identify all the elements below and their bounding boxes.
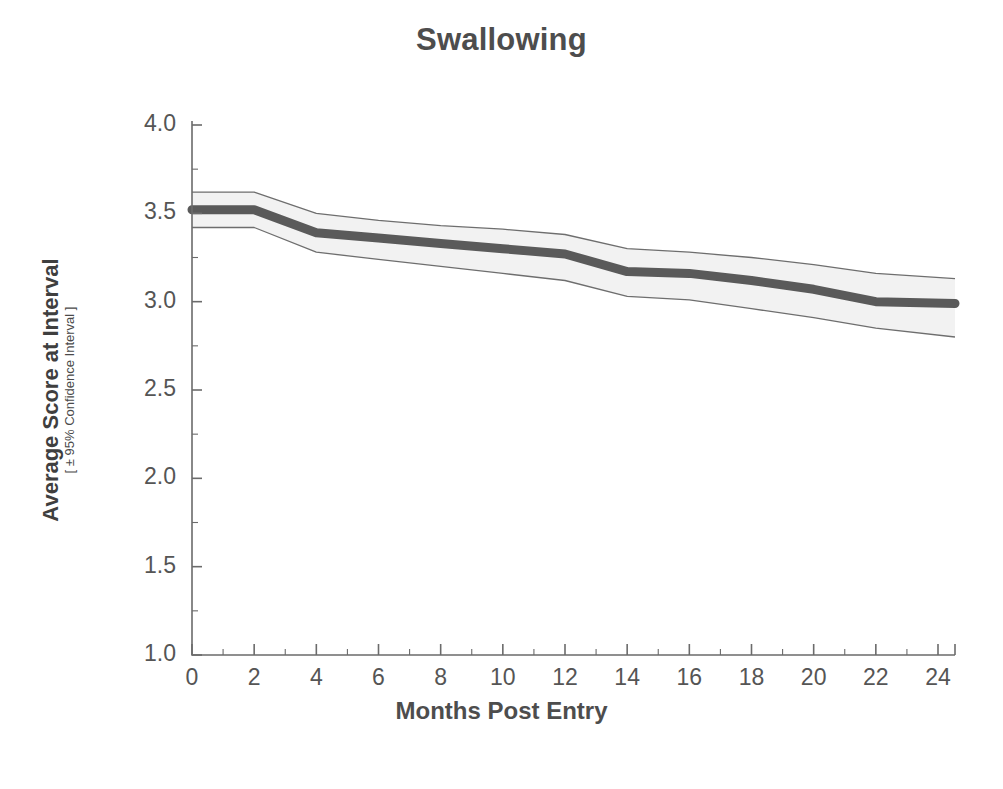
x-tick-label: 10 xyxy=(478,664,528,691)
y-tick-label: 2.5 xyxy=(106,375,176,402)
x-tick-label: 6 xyxy=(354,664,404,691)
x-tick-label: 24 xyxy=(913,664,963,691)
y-tick-label: 4.0 xyxy=(106,110,176,137)
y-tick-label: 2.0 xyxy=(106,463,176,490)
x-tick-label: 14 xyxy=(602,664,652,691)
x-tick-label: 12 xyxy=(540,664,590,691)
x-tick-label: 4 xyxy=(291,664,341,691)
y-tick-label: 3.0 xyxy=(106,287,176,314)
x-tick-label: 18 xyxy=(727,664,777,691)
x-tick-label: 20 xyxy=(789,664,839,691)
x-tick-label: 8 xyxy=(416,664,466,691)
x-tick-label: 0 xyxy=(167,664,217,691)
chart-figure: Swallowing Average Score at Interval [ ±… xyxy=(0,0,1003,789)
y-tick-label: 1.5 xyxy=(106,552,176,579)
y-tick-label: 1.0 xyxy=(106,640,176,667)
x-tick-label: 2 xyxy=(229,664,279,691)
axes xyxy=(192,121,955,655)
y-tick-label: 3.5 xyxy=(106,198,176,225)
confidence-band xyxy=(192,192,955,337)
x-tick-label: 22 xyxy=(851,664,901,691)
x-tick-label: 16 xyxy=(664,664,714,691)
